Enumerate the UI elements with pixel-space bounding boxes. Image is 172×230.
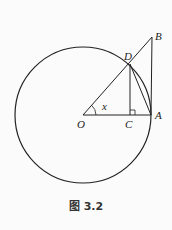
segment-DA: [130, 64, 151, 115]
angle-arc-x: [92, 105, 96, 115]
label-O: O: [77, 118, 85, 130]
segment-OB: [83, 37, 152, 115]
label-x: x: [101, 100, 107, 112]
label-A: A: [154, 109, 162, 121]
unit-circle-diagram: B D x O C A 图 3.2: [0, 0, 172, 230]
label-B: B: [155, 30, 162, 42]
segment-AB-tangent: [151, 37, 152, 115]
right-angle-mark: [130, 110, 135, 115]
label-D: D: [123, 50, 132, 62]
figure-caption: 图 3.2: [69, 200, 103, 213]
label-C: C: [125, 118, 133, 130]
